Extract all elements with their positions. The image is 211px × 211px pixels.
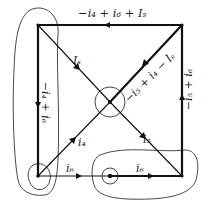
arrow-left-icon — [104, 22, 110, 28]
label-left-branch: −i₄ + i₆ — [40, 82, 51, 123]
node-top-right — [180, 23, 183, 26]
label-bottom-left-seg: i₆ — [66, 163, 74, 174]
label-right-branch: −i₅ + i₆ — [183, 69, 194, 110]
node-top-left — [36, 23, 39, 26]
label-diag-br: i₅ — [143, 134, 151, 145]
label-diag-tl: Iₛ — [73, 55, 81, 66]
node-bottom-right — [180, 174, 183, 177]
arrow-right-icon — [76, 173, 82, 179]
node-bottom-left — [36, 174, 40, 178]
circuit-graph-diagram — [0, 0, 211, 211]
arrow-right-icon — [148, 173, 154, 179]
node-center — [108, 100, 112, 104]
label-bottom-right-seg: i₆ — [136, 163, 144, 174]
label-top-branch: −i₄ + i₆ + Iₛ — [78, 8, 147, 20]
label-diag-bl: i₄ — [78, 137, 86, 148]
node-bottom-middle — [108, 174, 112, 178]
